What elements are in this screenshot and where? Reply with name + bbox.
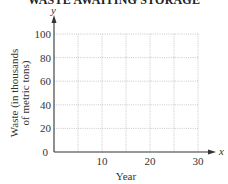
svg-text:of metric tons): of metric tons) <box>19 60 32 125</box>
grid <box>54 34 198 152</box>
svg-text:60: 60 <box>40 75 52 87</box>
svg-text:20: 20 <box>145 155 157 167</box>
svg-text:100: 100 <box>35 28 52 40</box>
svg-text:80: 80 <box>40 52 52 64</box>
y-axis-var: y <box>50 4 56 16</box>
x-axis-arrow-icon <box>208 150 216 155</box>
x-axis-label: Year <box>116 170 137 182</box>
svg-text:10: 10 <box>97 155 109 167</box>
y-tick-labels: 100 80 60 40 20 0 <box>35 28 52 158</box>
x-axis-var: x <box>218 145 224 157</box>
axes <box>52 15 217 155</box>
chart-plot: y x 100 80 60 40 20 0 10 20 30 Year Wast… <box>0 0 228 184</box>
svg-text:40: 40 <box>40 99 52 111</box>
y-axis-label: Waste (in thousands of metric tons) <box>8 49 32 137</box>
svg-text:20: 20 <box>40 122 52 134</box>
x-tick-labels: 10 20 30 <box>97 155 205 167</box>
svg-text:0: 0 <box>43 146 49 158</box>
svg-text:30: 30 <box>193 155 205 167</box>
y-axis-arrow-icon <box>52 15 57 23</box>
